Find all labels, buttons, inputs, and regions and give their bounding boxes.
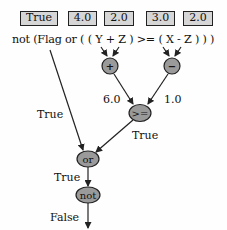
edge-z-to-minus <box>175 47 181 56</box>
edge-label-minus-result: 1.0 <box>164 93 182 106</box>
svg-text:not: not <box>80 190 96 201</box>
edge-label-plus-result: 6.0 <box>103 93 121 106</box>
edge-label-flag-value: True <box>37 108 63 121</box>
svg-text:or: or <box>83 154 94 165</box>
edge-flag-to-or <box>50 50 83 150</box>
expression-tree-diagram: True 4.0 2.0 3.0 2.0 not (Flag or ( ( Y … <box>0 0 227 230</box>
tree-edges: + − >= or not <box>0 0 227 230</box>
edge-z-to-plus <box>113 47 119 56</box>
node-plus: + <box>102 58 118 74</box>
svg-text:−: − <box>168 61 176 72</box>
edge-ge-to-or <box>96 120 133 152</box>
svg-text:>=: >= <box>132 108 149 119</box>
edge-label-not-result: False <box>50 211 79 224</box>
node-minus: − <box>164 58 180 74</box>
edge-label-ge-result: True <box>132 129 158 142</box>
edge-label-or-result: True <box>54 171 80 184</box>
node-or: or <box>77 151 99 167</box>
svg-text:+: + <box>106 61 114 72</box>
node-not: not <box>76 187 100 203</box>
edge-y-to-plus <box>101 47 107 56</box>
node-greater-equal: >= <box>129 105 151 122</box>
edge-x-to-minus <box>163 47 169 56</box>
